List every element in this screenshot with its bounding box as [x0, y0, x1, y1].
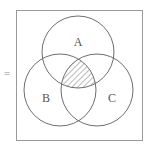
set-c-circle [61, 54, 133, 126]
set-c-label: C [108, 91, 116, 105]
set-b-label: B [42, 91, 50, 105]
venn-diagram: A B C [0, 0, 151, 150]
set-b-circle [24, 54, 96, 126]
set-a-label: A [74, 35, 83, 49]
